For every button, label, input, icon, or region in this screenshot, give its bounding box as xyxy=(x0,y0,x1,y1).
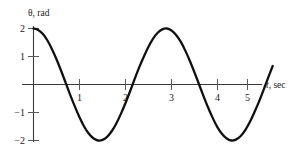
chart-background xyxy=(0,0,294,154)
y-axis-label: θ, rad xyxy=(28,8,50,18)
x-tick-label-3: 3 xyxy=(169,92,174,103)
x-tick-label-5: 5 xyxy=(245,92,250,103)
y-tick-label-minus-1: −1 xyxy=(14,107,25,118)
x-tick-label-4: 4 xyxy=(215,92,220,103)
y-tick-label-2: 2 xyxy=(20,23,25,34)
x-axis-label-unit: , sec xyxy=(269,80,286,90)
x-axis-label: t, sec xyxy=(266,80,286,90)
x-tick-label-1: 1 xyxy=(77,92,82,103)
theta-vs-time-chart: 2 1 −1 −2 1 2 3 4 5 θ, rad t, sec xyxy=(0,0,294,154)
y-tick-label-minus-2: −2 xyxy=(14,135,25,146)
y-tick-label-1: 1 xyxy=(20,51,25,62)
